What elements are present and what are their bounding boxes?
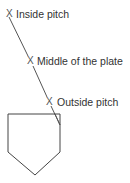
inside-pitch-label: Inside pitch (16, 8, 69, 20)
pitch-diagram (0, 0, 130, 183)
middle-pitch-x-marker: X (27, 55, 34, 67)
middle-pitch-label: Middle of the plate (37, 55, 123, 67)
plate-corner-tick (55, 114, 60, 125)
pitch-path-line (9, 17, 28, 56)
inside-pitch-x-marker: X (6, 8, 13, 20)
home-plate-icon (8, 114, 60, 175)
outside-pitch-label: Outside pitch (57, 96, 118, 108)
pitch-path-line-2 (33, 66, 47, 97)
outside-pitch-x-marker: X (46, 96, 53, 108)
